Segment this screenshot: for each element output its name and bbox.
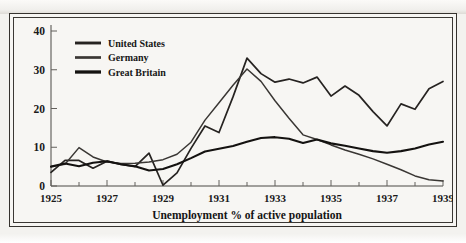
- x-axis-label: 1927: [96, 192, 119, 204]
- x-axis-label: 1935: [320, 192, 343, 204]
- y-axis-label: 40: [34, 25, 46, 37]
- x-axis-label: 1931: [208, 192, 230, 204]
- scan-artifact-top: [0, 0, 466, 14]
- line-chart: 0102030401925192719291931193319351937193…: [13, 17, 453, 223]
- x-axis-label: 1937: [376, 192, 399, 204]
- y-axis-label: 0: [39, 180, 45, 192]
- y-axis-label: 10: [34, 141, 46, 153]
- x-axis-label: 1925: [40, 192, 63, 204]
- scan-artifact-bottom: [0, 233, 466, 243]
- chart-container: 0102030401925192719291931193319351937193…: [13, 17, 453, 223]
- x-axis-label: 1929: [152, 192, 175, 204]
- series-line-great-britain: [51, 137, 443, 170]
- series-line-germany: [51, 69, 443, 181]
- legend-label-great-britain: Great Britain: [108, 67, 166, 78]
- legend-label-germany: Germany: [108, 52, 149, 63]
- x-axis-label: 1939: [432, 192, 453, 204]
- legend-label-united-states: United States: [108, 38, 165, 49]
- y-axis-label: 20: [34, 103, 46, 115]
- y-axis-label: 30: [34, 64, 46, 76]
- figure-page: 0102030401925192719291931193319351937193…: [0, 0, 466, 243]
- x-axis-label: 1933: [264, 192, 287, 204]
- x-axis-title: Unemployment % of active population: [152, 209, 342, 222]
